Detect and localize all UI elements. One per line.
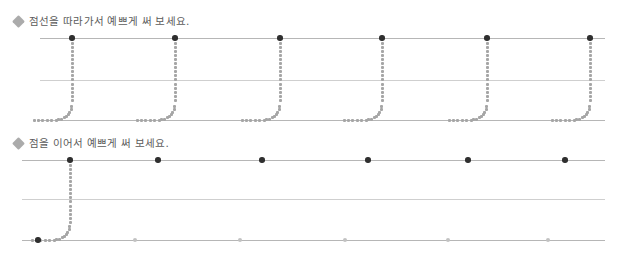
trace-dot [370, 118, 373, 121]
guide-rule-middle [40, 80, 605, 81]
trace-dot [486, 58, 489, 61]
trace-dot [50, 119, 53, 122]
trace-dot [589, 99, 592, 102]
glyph-end-anchor-dot [343, 238, 347, 242]
connect-section-heading: 점을 이어서 예쁘게 써 보세요. [14, 138, 169, 149]
trace-dot [559, 119, 562, 122]
trace-dot [555, 119, 558, 122]
trace-dot [69, 196, 72, 199]
trace-dot [174, 91, 177, 94]
trace-dot [351, 119, 354, 122]
trace-dot [71, 74, 74, 77]
trace-dot [589, 58, 592, 61]
trace-dot [71, 54, 74, 57]
trace-dot [279, 58, 282, 61]
trace-dot [486, 54, 489, 57]
trace-dot [268, 118, 271, 121]
guide-rule-middle [22, 199, 605, 200]
trace-dot [381, 95, 384, 98]
trace-dot [448, 119, 451, 122]
trace-dot [486, 70, 489, 73]
trace-dot [136, 119, 139, 122]
trace-dot [589, 46, 592, 49]
trace-dot [279, 87, 282, 90]
trace-dot [589, 42, 592, 45]
trace-dot [71, 42, 74, 45]
trace-dot [589, 95, 592, 98]
trace-dot [573, 119, 576, 122]
trace-dot [69, 168, 72, 171]
trace-dot [174, 54, 177, 57]
trace-dot [381, 42, 384, 45]
trace-dot [365, 119, 368, 122]
glyph-start-anchor-dot [365, 157, 371, 163]
trace-dot [71, 95, 74, 98]
trace-dot [486, 42, 489, 45]
trace-dot [381, 78, 384, 81]
trace-section-heading: 점선을 따라가서 예쁘게 써 보세요. [14, 16, 190, 27]
trace-dot [174, 50, 177, 53]
trace-dot [71, 83, 74, 86]
trace-dot [69, 221, 72, 224]
trace-dot [486, 87, 489, 90]
trace-dot [279, 91, 282, 94]
trace-dot [381, 70, 384, 73]
trace-dot [486, 78, 489, 81]
trace-dot [589, 78, 592, 81]
trace-dot [279, 70, 282, 73]
trace-dot [486, 50, 489, 53]
trace-dot [31, 239, 34, 242]
trace-dot [174, 78, 177, 81]
trace-dot [279, 83, 282, 86]
glyph-start-anchor-dot [465, 157, 471, 163]
trace-dot [279, 95, 282, 98]
trace-dot [343, 119, 346, 122]
diamond-bullet-icon [12, 137, 25, 150]
trace-dot [41, 119, 44, 122]
trace-dot [69, 172, 72, 175]
trace-dot [461, 119, 464, 122]
trace-dot [578, 118, 581, 121]
trace-dot [486, 99, 489, 102]
trace-dot [53, 239, 56, 242]
trace-dot [279, 99, 282, 102]
trace-dot [71, 78, 74, 81]
glyph-end-anchor-dot [238, 238, 242, 242]
trace-dot [44, 239, 47, 242]
glyph-start-anchor-dot [484, 35, 490, 41]
trace-dot [381, 62, 384, 65]
trace-dot [153, 119, 156, 122]
trace-dot [144, 119, 147, 122]
guide-rule-baseline [22, 240, 605, 241]
trace-dot [279, 50, 282, 53]
trace-dot [71, 50, 74, 53]
trace-dot [381, 54, 384, 57]
trace-dot [69, 192, 72, 195]
trace-dot [347, 119, 350, 122]
trace-dot [149, 119, 152, 122]
glyph-start-anchor-dot [259, 157, 265, 163]
trace-dot [589, 83, 592, 86]
trace-dot [486, 62, 489, 65]
trace-dot [163, 118, 166, 121]
trace-dot [589, 74, 592, 77]
trace-dot [60, 118, 63, 121]
trace-dot [381, 58, 384, 61]
glyph-end-anchor-dot [133, 238, 137, 242]
trace-dot [58, 238, 61, 241]
trace-dot [470, 119, 473, 122]
trace-dot [46, 119, 49, 122]
trace-dot [589, 87, 592, 90]
trace-dot [174, 95, 177, 98]
glyph-start-anchor-dot [155, 157, 161, 163]
trace-dot [174, 58, 177, 61]
trace-dot [381, 66, 384, 69]
trace-dot [71, 87, 74, 90]
trace-dot [69, 164, 72, 167]
trace-dot [279, 78, 282, 81]
trace-dot [589, 66, 592, 69]
trace-dot [589, 91, 592, 94]
trace-dot [69, 184, 72, 187]
connect-instruction-text: 점을 이어서 예쁘게 써 보세요. [29, 138, 169, 149]
trace-dot [174, 42, 177, 45]
